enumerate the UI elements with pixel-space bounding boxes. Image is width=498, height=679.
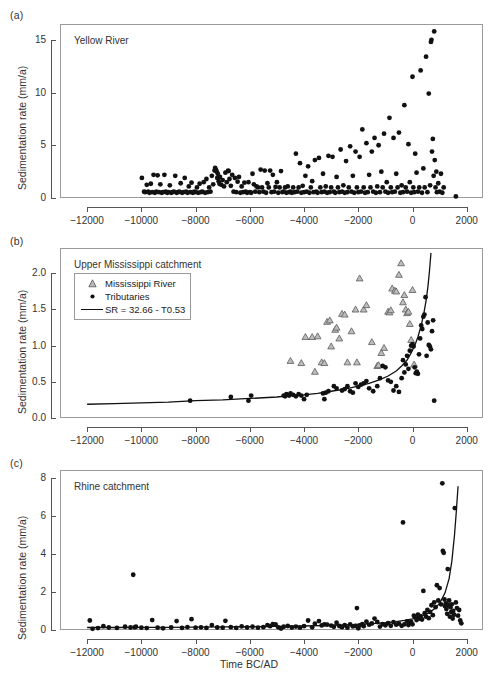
x-tick xyxy=(304,427,305,432)
y-tick-label: 1.5 xyxy=(8,303,46,314)
panel-b: (b) Sedimentation rate (mm/a) Upper Miss… xyxy=(0,228,498,450)
x-tick xyxy=(141,207,142,212)
panel-a-data-layer xyxy=(0,0,498,229)
legend-item-tributaries: Tributaries xyxy=(79,290,185,303)
panel-b-data-layer xyxy=(0,228,498,457)
line-marker-icon xyxy=(79,309,105,310)
x-tick xyxy=(467,427,468,432)
x-tick xyxy=(196,207,197,212)
y-tick-label: 10 xyxy=(8,87,46,98)
y-tick xyxy=(51,418,56,419)
x-tick xyxy=(141,427,142,432)
y-tick-label: 6 xyxy=(8,510,46,521)
panel-a: (a) Sedimentation rate (mm/a) Yellow Riv… xyxy=(0,0,498,228)
circle-marker-icon xyxy=(79,292,105,301)
series-mississippi-river xyxy=(287,260,417,374)
y-tick-label: 15 xyxy=(8,34,46,45)
y-tick-label: 8 xyxy=(8,472,46,483)
x-axis-line xyxy=(87,207,467,208)
x-axis-line xyxy=(87,427,467,428)
y-tick-label: 0 xyxy=(8,624,46,635)
x-tick xyxy=(250,207,251,212)
x-tick xyxy=(358,639,359,644)
x-tick xyxy=(87,639,88,644)
triangle-marker-icon xyxy=(79,279,105,288)
panel-b-legend: Mississippi River Tributaries SR = 32.66… xyxy=(74,273,191,320)
legend-label-mississippi-river: Mississippi River xyxy=(105,278,176,289)
x-tick-label: 2000 xyxy=(432,647,498,658)
y-tick-label: 0.5 xyxy=(8,376,46,387)
x-tick-label: 2000 xyxy=(432,215,498,226)
y-tick xyxy=(51,478,56,479)
series-rhine-catchment-sites xyxy=(87,481,463,631)
x-tick xyxy=(196,427,197,432)
x-tick xyxy=(250,427,251,432)
x-tick xyxy=(467,639,468,644)
x-tick xyxy=(87,207,88,212)
panel-c: (c) Sedimentation rate (mm/a) Rhine catc… xyxy=(0,450,498,679)
figure-container: (a) Sedimentation rate (mm/a) Yellow Riv… xyxy=(0,0,498,679)
y-tick-label: 2 xyxy=(8,586,46,597)
x-axis-line xyxy=(87,639,467,640)
x-tick xyxy=(413,427,414,432)
y-tick-label: 1.0 xyxy=(8,340,46,351)
legend-item-mississippi-river: Mississippi River xyxy=(79,277,185,290)
y-tick xyxy=(51,592,56,593)
legend-label-fit-equation: SR = 32.66 - T0.53 xyxy=(105,304,185,315)
y-tick-label: 5 xyxy=(8,139,46,150)
x-tick-label: 2000 xyxy=(432,435,498,446)
x-tick xyxy=(358,207,359,212)
y-tick xyxy=(51,198,56,199)
y-tick xyxy=(51,516,56,517)
x-tick xyxy=(196,639,197,644)
fit-curve xyxy=(87,486,458,627)
series-tributaries xyxy=(188,295,437,403)
figure-xlabel: Time BC/AD xyxy=(0,658,498,670)
x-tick xyxy=(141,639,142,644)
y-tick xyxy=(51,346,56,347)
y-tick xyxy=(51,40,56,41)
legend-item-fit-equation: SR = 32.66 - T0.53 xyxy=(79,303,185,316)
y-axis-line xyxy=(51,40,52,198)
y-tick xyxy=(51,273,56,274)
x-tick xyxy=(358,427,359,432)
x-tick xyxy=(413,207,414,212)
legend-label-tributaries: Tributaries xyxy=(105,291,150,302)
y-tick xyxy=(51,93,56,94)
y-tick xyxy=(51,554,56,555)
y-tick-label: 4 xyxy=(8,548,46,559)
y-tick xyxy=(51,309,56,310)
x-tick xyxy=(304,639,305,644)
x-tick xyxy=(467,207,468,212)
y-tick-label: 2.0 xyxy=(8,267,46,278)
y-tick xyxy=(51,145,56,146)
x-tick xyxy=(87,427,88,432)
x-tick xyxy=(304,207,305,212)
y-tick xyxy=(51,382,56,383)
y-tick-label: 0 xyxy=(8,192,46,203)
series-yellow-river-sites xyxy=(139,29,458,199)
y-tick xyxy=(51,630,56,631)
y-tick-label: 0.0 xyxy=(8,412,46,423)
x-tick xyxy=(413,639,414,644)
panel-c-data-layer xyxy=(0,450,498,679)
x-tick xyxy=(250,639,251,644)
